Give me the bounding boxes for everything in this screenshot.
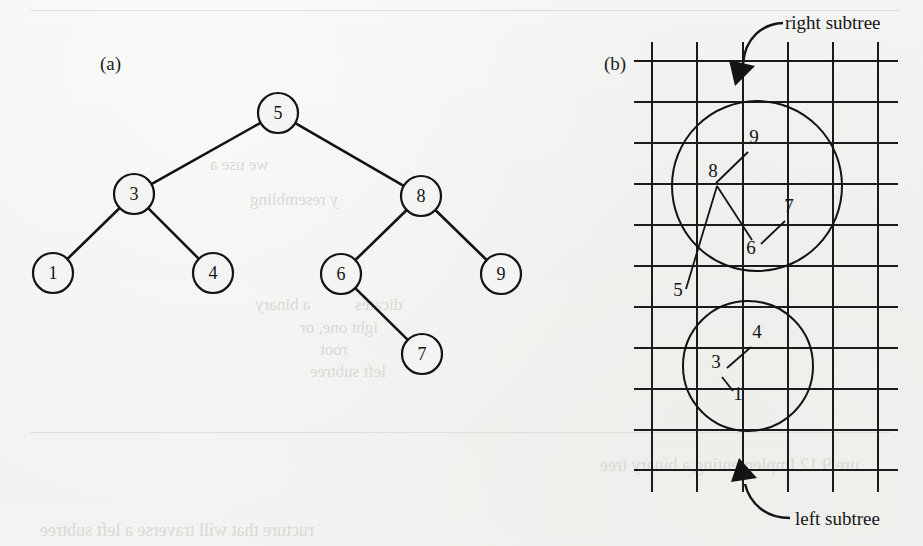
figure-page: ure 9.12 Implementing a binary treea bin… bbox=[0, 0, 923, 546]
leader-line-g5 bbox=[686, 186, 717, 289]
grid-cell-value-6: 6 bbox=[746, 237, 756, 258]
grid-cell-value-7: 7 bbox=[784, 195, 794, 216]
left-subtree-circle bbox=[683, 301, 813, 431]
grid-cell-value-8: 8 bbox=[708, 160, 718, 181]
leader-line-g4 bbox=[727, 347, 751, 368]
memory-grid-diagram: 98765431 bbox=[0, 0, 923, 546]
grid-cell-value-1: 1 bbox=[733, 383, 743, 404]
right-subtree-annotation: right subtree bbox=[785, 12, 881, 34]
grid-cell-value-4: 4 bbox=[752, 321, 762, 342]
leader-line-g8 bbox=[717, 186, 752, 240]
grid-line-group bbox=[634, 42, 898, 492]
leader-line-group bbox=[686, 152, 785, 391]
left-subtree-annotation: left subtree bbox=[795, 508, 880, 530]
grid-cell-value-3: 3 bbox=[711, 351, 721, 372]
left-subtree-arrow bbox=[731, 458, 790, 518]
right-subtree-arrow bbox=[729, 23, 783, 86]
grid-cell-value-5: 5 bbox=[673, 279, 683, 300]
grid-cell-value-9: 9 bbox=[749, 126, 759, 147]
